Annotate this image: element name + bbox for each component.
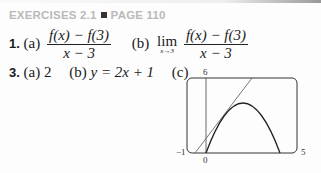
origin-label: 0 [203, 155, 208, 165]
y-max-label: 6 [203, 67, 208, 77]
tangent-line [195, 78, 252, 153]
x-max-label: 5 [301, 147, 306, 157]
tangent-graph [0, 0, 321, 173]
parabola-curve [206, 103, 280, 153]
x-min-label: −1 [176, 147, 186, 157]
